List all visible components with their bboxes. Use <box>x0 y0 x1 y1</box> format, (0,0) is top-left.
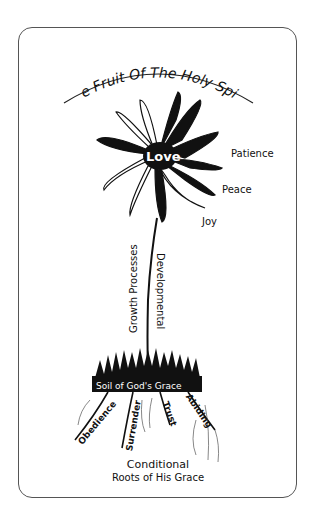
stem-label-developmental: Developmental <box>155 253 166 329</box>
fruit-label-joy: Joy <box>202 216 217 227</box>
stem-label-growth: Growth Processes <box>128 244 139 333</box>
footer-line2: Roots of His Grace <box>0 472 316 483</box>
flower-center-label: Love <box>146 149 181 164</box>
fruit-label-peace: Peace <box>222 184 252 195</box>
footer-line1: Conditional <box>0 458 316 471</box>
page-title: The Fruit Of The Holy Spirit <box>0 0 241 102</box>
soil-label: Soil of God's Grace <box>96 381 182 391</box>
fruit-label-patience: Patience <box>231 148 274 159</box>
